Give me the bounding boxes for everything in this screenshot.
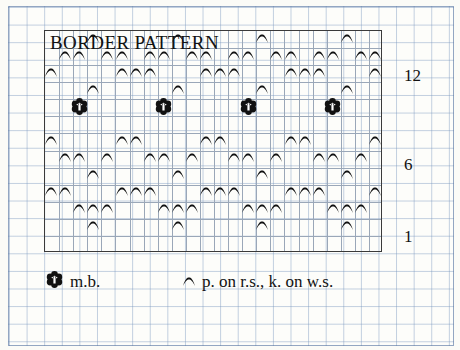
- purl-icon: [58, 187, 72, 197]
- purl-icon: [269, 51, 283, 61]
- purl-icon: [368, 68, 382, 78]
- purl-icon: [143, 51, 157, 61]
- purl-icon: [199, 187, 213, 197]
- purl-icon: [72, 51, 86, 61]
- row-label-6: 6: [404, 155, 413, 175]
- purl-icon: [129, 68, 143, 78]
- purl-icon: [312, 51, 326, 61]
- purl-icon: [340, 204, 354, 214]
- purl-icon: [284, 68, 298, 78]
- purl-icon: [143, 153, 157, 163]
- purl-icon: [185, 153, 199, 163]
- purl-icon: [213, 187, 227, 197]
- purl-icon: [171, 221, 185, 231]
- purl-icon: [298, 68, 312, 78]
- purl-icon: [129, 187, 143, 197]
- purl-icon: [171, 34, 185, 44]
- purl-icon: [100, 51, 114, 61]
- purl-icon: [340, 85, 354, 95]
- grid-hline: [45, 185, 381, 186]
- purl-icon: [72, 204, 86, 214]
- purl-icon: [58, 153, 72, 163]
- purl-icon: [199, 68, 213, 78]
- purl-icon: [86, 34, 100, 44]
- chart-page: BORDER PATTERN 12 6 1 m.b. p. on r.s., k…: [0, 0, 460, 350]
- grid-hline: [45, 202, 381, 203]
- purl-icon: [312, 187, 326, 197]
- purl-icon: [241, 153, 255, 163]
- purl-icon: [157, 51, 171, 61]
- m.b.-icon: [324, 98, 341, 115]
- purl-icon: [44, 68, 58, 78]
- purl-icon: [354, 204, 368, 214]
- purl-icon: [284, 136, 298, 146]
- row-label-1: 1: [404, 227, 413, 247]
- purl-icon: [213, 136, 227, 146]
- purl-icon: [284, 187, 298, 197]
- purl-icon: [227, 68, 241, 78]
- purl-icon: [213, 68, 227, 78]
- m.b.-icon: [240, 98, 257, 115]
- purl-icon: [255, 85, 269, 95]
- purl-icon: [312, 68, 326, 78]
- purl-icon: [115, 68, 129, 78]
- purl-icon: [298, 187, 312, 197]
- purl-icon: [340, 34, 354, 44]
- purl-icon: [72, 153, 86, 163]
- purl-icon: [86, 221, 100, 231]
- purl-icon: [241, 204, 255, 214]
- purl-icon: [100, 153, 114, 163]
- purl-icon: [171, 170, 185, 180]
- purl-icon: [255, 34, 269, 44]
- legend-m.b.-icon: [46, 271, 63, 288]
- grid-hline: [45, 116, 381, 117]
- purl-icon: [115, 51, 129, 61]
- purl-icon: [312, 153, 326, 163]
- purl-icon: [171, 204, 185, 214]
- purl-icon: [129, 136, 143, 146]
- purl-icon: [86, 204, 100, 214]
- grid-hline: [45, 151, 381, 152]
- grid-hline: [45, 133, 381, 134]
- purl-icon: [115, 187, 129, 197]
- purl-icon: [284, 51, 298, 61]
- purl-icon: [143, 187, 157, 197]
- purl-icon: [368, 136, 382, 146]
- chart-legend: m.b. p. on r.s., k. on w.s.: [44, 268, 384, 298]
- purl-icon: [227, 153, 241, 163]
- purl-icon: [199, 51, 213, 61]
- purl-icon: [171, 85, 185, 95]
- purl-icon: [241, 51, 255, 61]
- purl-icon: [44, 136, 58, 146]
- purl-icon: [115, 136, 129, 146]
- purl-icon: [227, 51, 241, 61]
- purl-icon: [58, 51, 72, 61]
- purl-icon: [255, 204, 269, 214]
- purl-icon: [269, 204, 283, 214]
- m.b.-icon: [155, 98, 172, 115]
- purl-icon: [255, 221, 269, 231]
- purl-icon: [185, 51, 199, 61]
- purl-icon: [100, 204, 114, 214]
- purl-icon: [157, 204, 171, 214]
- grid-hline: [45, 82, 381, 83]
- purl-icon: [368, 187, 382, 197]
- grid-hline: [45, 219, 381, 220]
- purl-icon: [340, 170, 354, 180]
- purl-icon: [354, 153, 368, 163]
- purl-icon: [185, 204, 199, 214]
- purl-icon: [326, 51, 340, 61]
- purl-icon: [86, 85, 100, 95]
- purl-icon: [199, 136, 213, 146]
- legend-label-purl: p. on r.s., k. on w.s.: [202, 272, 333, 292]
- purl-icon: [326, 204, 340, 214]
- legend-purl-icon: [182, 277, 196, 287]
- purl-icon: [269, 153, 283, 163]
- m.b.-icon: [71, 98, 88, 115]
- grid-hline: [45, 65, 381, 66]
- purl-icon: [255, 170, 269, 180]
- legend-label-mb: m.b.: [70, 272, 100, 292]
- purl-icon: [368, 51, 382, 61]
- purl-icon: [143, 68, 157, 78]
- purl-icon: [86, 170, 100, 180]
